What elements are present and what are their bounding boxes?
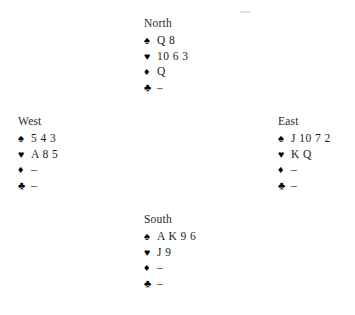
- heart-icon: ♥: [144, 49, 155, 65]
- spade-icon: ♠: [18, 131, 29, 147]
- hand-north-hearts-row: ♥ 10 6 3: [144, 49, 188, 65]
- hand-north-diamonds-cards: Q: [155, 64, 166, 80]
- hand-south-clubs-cards: –: [155, 276, 163, 292]
- hand-west-diamonds-row: ♦ –: [18, 162, 58, 178]
- club-icon: ♣: [278, 178, 289, 194]
- hand-east: East ♠ J 10 7 2 ♥ K Q ♦ – ♣ –: [278, 114, 331, 193]
- hand-north: North ♠ Q 8 ♥ 10 6 3 ♦ Q ♣ –: [144, 16, 188, 95]
- hand-south-hearts-cards: J 9: [155, 245, 171, 261]
- club-icon: ♣: [18, 178, 29, 194]
- hand-east-label: East: [278, 114, 331, 128]
- hand-east-diamonds-row: ♦ –: [278, 162, 331, 178]
- club-icon: ♣: [144, 276, 155, 292]
- diamond-icon: ♦: [278, 162, 289, 178]
- hand-south-spades-cards: A K 9 6: [155, 229, 196, 245]
- hand-west-spades-row: ♠ 5 4 3: [18, 131, 58, 147]
- hand-west-hearts-row: ♥ A 8 5: [18, 147, 58, 163]
- diamond-icon: ♦: [144, 64, 155, 80]
- hand-south-diamonds-cards: –: [155, 260, 163, 276]
- hand-north-spades-row: ♠ Q 8: [144, 33, 188, 49]
- hand-west-spades-cards: 5 4 3: [29, 131, 56, 147]
- hand-west: West ♠ 5 4 3 ♥ A 8 5 ♦ – ♣ –: [18, 114, 58, 193]
- hand-west-clubs-row: ♣ –: [18, 178, 58, 194]
- hand-north-label: North: [144, 16, 188, 30]
- hand-west-clubs-cards: –: [29, 178, 37, 194]
- club-icon: ♣: [144, 80, 155, 96]
- bridge-hand-diagram: North ♠ Q 8 ♥ 10 6 3 ♦ Q ♣ – West ♠ 5 4 …: [0, 0, 355, 315]
- spade-icon: ♠: [144, 33, 155, 49]
- hand-south-clubs-row: ♣ –: [144, 276, 196, 292]
- hand-east-hearts-cards: K Q: [289, 147, 312, 163]
- hand-south-hearts-row: ♥ J 9: [144, 245, 196, 261]
- spade-icon: ♠: [144, 229, 155, 245]
- spade-icon: ♠: [278, 131, 289, 147]
- hand-south-label: South: [144, 212, 196, 226]
- hand-east-clubs-cards: –: [289, 178, 297, 194]
- hand-south-spades-row: ♠ A K 9 6: [144, 229, 196, 245]
- hand-south: South ♠ A K 9 6 ♥ J 9 ♦ – ♣ –: [144, 212, 196, 291]
- hand-north-spades-cards: Q 8: [155, 33, 175, 49]
- hand-east-clubs-row: ♣ –: [278, 178, 331, 194]
- hand-east-hearts-row: ♥ K Q: [278, 147, 331, 163]
- hand-south-diamonds-row: ♦ –: [144, 260, 196, 276]
- hand-north-hearts-cards: 10 6 3: [155, 49, 188, 65]
- hand-west-label: West: [18, 114, 58, 128]
- heart-icon: ♥: [18, 147, 29, 163]
- hand-east-spades-row: ♠ J 10 7 2: [278, 131, 331, 147]
- hand-north-clubs-row: ♣ –: [144, 80, 188, 96]
- hand-west-diamonds-cards: –: [29, 162, 37, 178]
- heart-icon: ♥: [144, 245, 155, 261]
- hand-west-hearts-cards: A 8 5: [29, 147, 58, 163]
- heart-icon: ♥: [278, 147, 289, 163]
- hand-north-diamonds-row: ♦ Q: [144, 64, 188, 80]
- diamond-icon: ♦: [18, 162, 29, 178]
- hand-east-diamonds-cards: –: [289, 162, 297, 178]
- hand-east-spades-cards: J 10 7 2: [289, 131, 331, 147]
- hand-north-clubs-cards: –: [155, 80, 163, 96]
- diamond-icon: ♦: [144, 260, 155, 276]
- scan-artifact-speck: [240, 11, 250, 13]
